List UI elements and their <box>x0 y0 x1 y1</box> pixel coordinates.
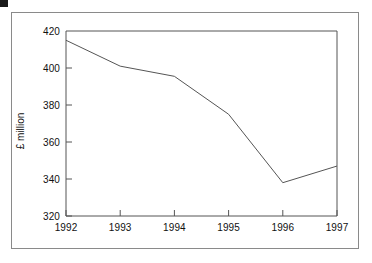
chart-canvas <box>0 0 372 263</box>
chart-figure: £ million 320340360380400420199219931994… <box>0 0 372 263</box>
axis-spines <box>66 31 337 216</box>
axis-ticks <box>66 68 337 216</box>
plot-area: £ million 320340360380400420199219931994… <box>0 0 372 263</box>
data-series-line <box>66 40 337 182</box>
data-series-group <box>66 40 337 182</box>
